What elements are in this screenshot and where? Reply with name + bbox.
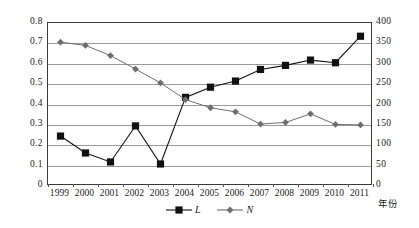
data-point-diamond <box>132 66 139 73</box>
left-y-tick-label: 0 <box>38 180 43 190</box>
data-point-square <box>357 33 364 40</box>
right-y-tick-label: 350 <box>376 37 391 47</box>
x-tick-label: 2011 <box>344 188 376 198</box>
right-y-tick-label: 250 <box>376 78 391 88</box>
data-point-diamond <box>82 42 89 49</box>
right-y-tick-label: 300 <box>376 58 391 68</box>
data-point-diamond <box>157 80 164 87</box>
data-point-diamond <box>107 52 114 59</box>
data-point-square <box>282 62 289 69</box>
data-point-square <box>132 122 139 129</box>
right-y-tick-label: 400 <box>376 17 391 27</box>
legend-item-n[interactable]: N <box>217 205 253 215</box>
data-point-diamond <box>227 207 234 214</box>
data-point-square <box>57 132 64 139</box>
legend-diamond-icon <box>217 205 243 215</box>
left-y-tick-label: 0.2 <box>30 139 43 149</box>
legend-label: L <box>195 205 201 215</box>
left-y-tick-label: 0.4 <box>30 99 43 109</box>
data-point-square <box>332 59 339 66</box>
left-y-tick-label: 0.1 <box>30 160 43 170</box>
data-point-diamond <box>232 108 239 115</box>
data-point-diamond <box>332 121 339 128</box>
right-y-tick-label: 0 <box>376 180 381 190</box>
data-point-diamond <box>307 110 314 117</box>
data-point-square <box>207 84 214 91</box>
data-point-diamond <box>57 39 64 46</box>
data-point-square <box>175 206 182 213</box>
legend-label: N <box>246 205 253 215</box>
data-point-diamond <box>207 104 214 111</box>
legend-item-l[interactable]: L <box>166 205 201 215</box>
plot-area <box>47 22 372 185</box>
series-line <box>61 42 361 125</box>
data-point-diamond <box>357 121 364 128</box>
data-point-square <box>307 56 314 63</box>
left-y-tick-label: 0.7 <box>30 37 43 47</box>
chart-legend: LN <box>0 205 419 215</box>
data-point-square <box>232 77 239 84</box>
data-point-square <box>157 160 164 167</box>
legend-square-icon <box>166 205 192 215</box>
data-point-square <box>82 149 89 156</box>
chart-figure: 00.10.20.30.40.50.60.70.8 05010015020025… <box>0 0 419 228</box>
data-point-square <box>107 158 114 165</box>
series-n <box>57 39 364 129</box>
series-plot <box>48 23 373 186</box>
right-y-tick-label: 150 <box>376 119 391 129</box>
right-y-tick-label: 50 <box>376 160 386 170</box>
right-y-tick-label: 100 <box>376 139 391 149</box>
series-line <box>61 36 361 164</box>
left-y-tick-label: 0.5 <box>30 78 43 88</box>
left-y-tick-label: 0.8 <box>30 17 43 27</box>
data-point-diamond <box>257 121 264 128</box>
left-y-tick-label: 0.3 <box>30 119 43 129</box>
x-tick-mark <box>373 184 374 187</box>
data-point-diamond <box>282 119 289 126</box>
data-point-square <box>257 66 264 73</box>
right-y-tick-label: 200 <box>376 99 391 109</box>
left-y-tick-label: 0.6 <box>30 58 43 68</box>
